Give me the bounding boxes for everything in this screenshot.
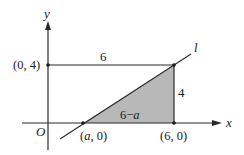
point-a-0 [81, 121, 85, 125]
point-6-0 [172, 121, 176, 125]
origin-label: O [36, 124, 46, 139]
x-axis-arrow-icon [212, 120, 222, 126]
right-segment-label: 4 [178, 85, 185, 100]
x-axis-label: x [225, 115, 232, 130]
top-segment-label: 6 [100, 49, 107, 64]
base-segment-label: 6−a [120, 108, 140, 122]
point-a-0-label: (a, 0) [80, 129, 107, 143]
line-l-label: l [194, 40, 198, 55]
point-0-4-label: (0, 4) [13, 58, 40, 72]
y-axis-label: y [42, 6, 50, 21]
point-6-4 [172, 63, 176, 67]
point-0-4 [46, 63, 50, 67]
y-axis-arrow-icon [45, 21, 51, 30]
point-6-0-label: (6, 0) [160, 129, 187, 143]
coordinate-diagram: y x O l (0, 4) (6, 0) (a, 0) 6 4 6−a [0, 0, 244, 155]
